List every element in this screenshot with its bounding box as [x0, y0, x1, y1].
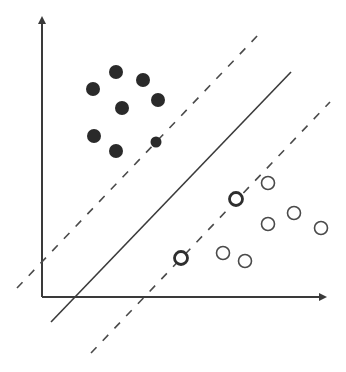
decision-hyperplane [51, 72, 291, 322]
data-point-open [217, 247, 230, 260]
data-point-filled [115, 101, 129, 115]
data-point-open [239, 255, 252, 268]
data-point-filled [136, 73, 150, 87]
data-point-filled [86, 82, 100, 96]
data-point-filled [151, 93, 165, 107]
data-point-filled [109, 65, 123, 79]
class-open-points [175, 177, 328, 268]
data-point-open [262, 218, 275, 231]
support-vector-filled [151, 137, 162, 148]
margin-boundary-lower [91, 102, 330, 353]
data-point-filled [87, 129, 101, 143]
data-point-filled [109, 144, 123, 158]
data-point-open [288, 207, 301, 220]
support-vector-open [230, 193, 243, 206]
svm-diagram [0, 0, 346, 372]
support-vector-open [175, 252, 188, 265]
data-point-open [315, 222, 328, 235]
class-filled-points [86, 65, 165, 158]
data-point-open [262, 177, 275, 190]
